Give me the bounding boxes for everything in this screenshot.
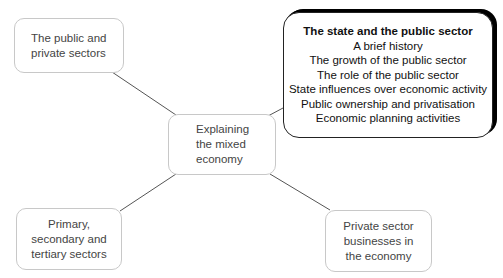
node-text: businesses in [326, 234, 431, 249]
node-item: Public ownership and privatisation [284, 97, 492, 112]
node-public-private-sectors: The public and private sectors [14, 18, 124, 73]
node-title: The state and the public sector [284, 24, 492, 39]
node-state-public-sector: The state and the public sector A brief … [283, 12, 493, 138]
node-item: Economic planning activities [284, 111, 492, 126]
node-item: State influences over economic activity [284, 82, 492, 97]
node-text: economy [196, 152, 275, 167]
node-text: Primary, [17, 217, 121, 232]
node-central-mixed-economy: Explaining the mixed economy [168, 114, 276, 175]
node-item: The growth of the public sector [284, 53, 492, 68]
node-item: The role of the public sector [284, 68, 492, 83]
node-text: Explaining [196, 122, 275, 137]
node-text: The public and [31, 31, 123, 46]
node-text: private sectors [31, 46, 123, 61]
node-text: tertiary sectors [17, 247, 121, 262]
node-primary-secondary-tertiary: Primary, secondary and tertiary sectors [16, 208, 122, 270]
node-text: the economy [326, 249, 431, 264]
node-text: the mixed [196, 137, 275, 152]
node-text: secondary and [17, 232, 121, 247]
node-private-sector-businesses: Private sector businesses in the economy [325, 210, 432, 272]
node-item: A brief history [284, 39, 492, 54]
node-text: Private sector [326, 219, 431, 234]
